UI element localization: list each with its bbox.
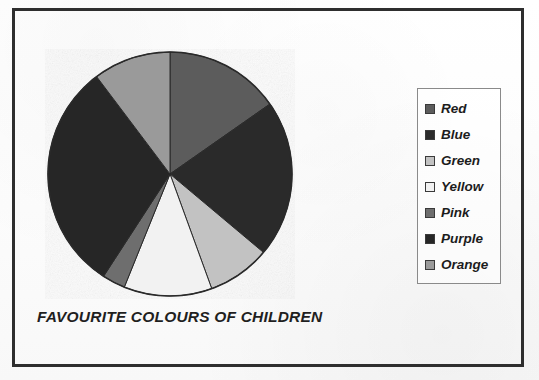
legend-item-purple[interactable]: Purple bbox=[425, 226, 500, 252]
legend-item-green[interactable]: Green bbox=[425, 148, 500, 174]
screenshot-root: FAVOURITE COLOURS OF CHILDREN RedBlueGre… bbox=[0, 0, 539, 380]
legend-item-label: Orange bbox=[441, 258, 488, 272]
chart-caption: FAVOURITE COLOURS OF CHILDREN bbox=[37, 308, 322, 326]
legend-swatch-icon-purple bbox=[425, 234, 435, 244]
legend-item-blue[interactable]: Blue bbox=[425, 122, 500, 148]
legend-swatch-icon-orange bbox=[425, 260, 435, 270]
pie-slice-group bbox=[48, 52, 292, 296]
legend: RedBlueGreenYellowPinkPurpleOrange bbox=[417, 88, 501, 284]
legend-item-pink[interactable]: Pink bbox=[425, 200, 500, 226]
pie-chart-svg bbox=[45, 49, 295, 299]
legend-item-orange[interactable]: Orange bbox=[425, 252, 500, 278]
legend-swatch-icon-pink bbox=[425, 208, 435, 218]
legend-item-label: Pink bbox=[441, 206, 470, 220]
legend-item-red[interactable]: Red bbox=[425, 96, 500, 122]
legend-item-label: Purple bbox=[441, 232, 483, 246]
legend-swatch-icon-blue bbox=[425, 130, 435, 140]
legend-swatch-icon-yellow bbox=[425, 182, 435, 192]
legend-item-label: Red bbox=[441, 102, 467, 116]
legend-item-label: Green bbox=[441, 154, 480, 168]
legend-swatch-icon-green bbox=[425, 156, 435, 166]
legend-item-label: Yellow bbox=[441, 180, 483, 194]
legend-item-label: Blue bbox=[441, 128, 470, 142]
legend-item-yellow[interactable]: Yellow bbox=[425, 174, 500, 200]
legend-swatch-icon-red bbox=[425, 104, 435, 114]
pie-chart bbox=[45, 49, 295, 299]
